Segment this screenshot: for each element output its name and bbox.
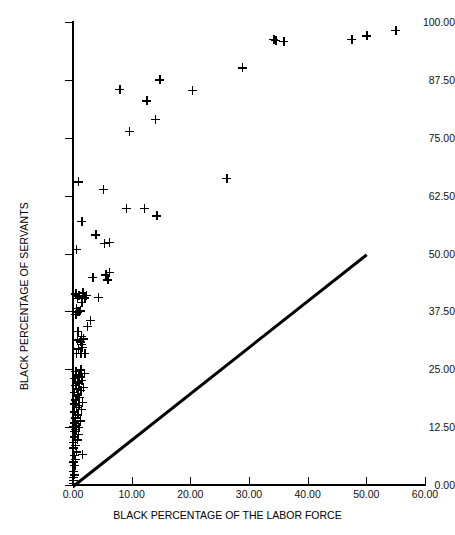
- data-point: [105, 238, 114, 247]
- data-point: [151, 115, 160, 124]
- x-tick-label: 0.00: [44, 489, 102, 499]
- data-point: [77, 217, 86, 226]
- data-point: [76, 365, 85, 374]
- data-point: [115, 85, 124, 94]
- scatter-plot-figure: 0.0012.5025.0037.5050.0062.5075.0087.501…: [0, 0, 455, 535]
- data-point: [88, 273, 97, 282]
- data-point: [238, 63, 247, 72]
- data-point: [152, 211, 161, 220]
- data-point: [86, 316, 95, 325]
- x-tick-label: 50.00: [337, 489, 395, 499]
- data-point: [347, 35, 356, 44]
- data-point: [73, 327, 82, 336]
- data-point: [140, 204, 149, 213]
- data-point: [279, 37, 288, 46]
- x-tick-label: 40.00: [279, 489, 337, 499]
- data-point: [391, 26, 400, 35]
- x-tick-label: 30.00: [220, 489, 278, 499]
- y-axis-title: BLACK PERCENTAGE OF SERVANTS: [18, 202, 30, 390]
- data-point: [103, 275, 112, 284]
- x-tick-mark: [425, 477, 426, 486]
- x-tick-label: 10.00: [103, 489, 161, 499]
- plot-area: [73, 22, 425, 485]
- parity-reference-line: [72, 254, 367, 488]
- data-point: [155, 75, 164, 84]
- x-tick-label: 60.00: [396, 489, 454, 499]
- data-point: [188, 86, 197, 95]
- data-point: [142, 96, 151, 105]
- data-point: [78, 288, 87, 297]
- data-point: [222, 174, 231, 183]
- data-point: [72, 245, 81, 254]
- data-point: [94, 293, 103, 302]
- data-point: [91, 230, 100, 239]
- x-axis-title: BLACK PERCENTAGE OF THE LABOR FORCE: [0, 509, 455, 521]
- data-point: [125, 127, 134, 136]
- data-point: [99, 185, 108, 194]
- data-point: [362, 31, 371, 40]
- data-point: [74, 177, 83, 186]
- data-point: [122, 204, 131, 213]
- x-tick-label: 20.00: [161, 489, 219, 499]
